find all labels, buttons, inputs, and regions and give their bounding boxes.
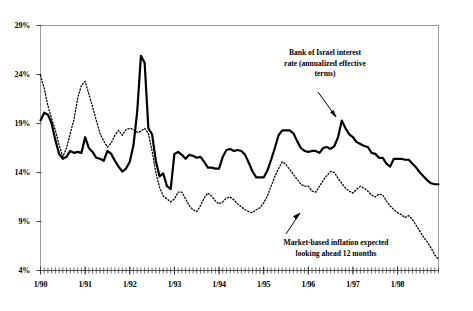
y-axis-tick-label: 29%	[4, 21, 30, 30]
series-line-2	[41, 75, 439, 259]
annotation-line: Bank of Israel interest	[252, 48, 398, 59]
annotation-series2: Market-based inflation expectedlooking a…	[246, 238, 426, 259]
x-axis-tick-label: 1/96	[291, 280, 325, 289]
y-axis-tick-label: 9%	[4, 217, 30, 226]
y-axis-tick-label: 19%	[4, 119, 30, 128]
y-axis-tick-label: 24%	[4, 70, 30, 79]
annotation-arrowhead-series2	[293, 213, 300, 219]
chart-plot-area	[0, 0, 473, 311]
x-axis-tick-label: 1/98	[381, 280, 415, 289]
annotation-series1: Bank of Israel interestrate (annualized …	[252, 48, 398, 80]
annotation-line: rate (annualized effective	[252, 59, 398, 70]
x-axis-tick-label: 1/90	[24, 280, 58, 289]
x-axis-tick-label: 1/92	[113, 280, 147, 289]
annotation-line: looking ahead 12 months	[246, 249, 426, 260]
y-axis-tick-label: 4%	[4, 266, 30, 275]
x-axis-tick-label: 1/97	[336, 280, 370, 289]
x-axis-tick-label: 1/95	[247, 280, 281, 289]
chart-container: 29%24%19%14%9%4%1/901/911/921/931/941/95…	[0, 0, 473, 311]
x-axis-tick-label: 1/94	[202, 280, 236, 289]
annotation-line: terms)	[252, 69, 398, 80]
annotation-line: Market-based inflation expected	[246, 238, 426, 249]
x-axis-tick-label: 1/91	[68, 280, 102, 289]
y-axis-tick-label: 14%	[4, 168, 30, 177]
x-axis-tick-label: 1/93	[157, 280, 191, 289]
